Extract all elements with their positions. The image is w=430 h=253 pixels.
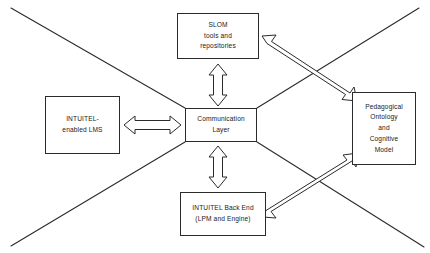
node-pedagogy-line-3: and <box>378 123 389 134</box>
node-pedagogy-line-2: Ontology <box>370 112 397 123</box>
node-slom-line-1: SLOM <box>208 20 227 31</box>
node-lms-line-2: enabled LMS <box>62 125 102 136</box>
pedagogy-to-backend-arrow <box>263 153 358 218</box>
node-pedagogy-line-4: Cognitive <box>370 134 399 145</box>
node-backend-line-2: (LPM and Engine) <box>195 214 250 225</box>
node-pedagogical-ontology-and-cognitive-model[interactable]: Pedagogical Ontology and Cognitive Model <box>352 92 416 165</box>
node-pedagogy-line-1: Pedagogical <box>365 102 403 113</box>
node-communication-line-1: Communication <box>197 114 245 125</box>
node-slom-tools-and-repositories[interactable]: SLOM tools and repositories <box>177 13 259 59</box>
node-pedagogy-line-5: Model <box>375 145 394 156</box>
node-intuitel-back-end[interactable]: INTUITEL Back End (LPM and Engine) <box>180 192 266 236</box>
node-slom-line-2: tools and <box>204 31 232 42</box>
node-intuitel-enabled-lms[interactable]: INTUITEL- enabled LMS <box>45 96 120 154</box>
node-backend-line-1: INTUITEL Back End <box>192 203 253 214</box>
communication-to-backend-arrow <box>209 146 227 188</box>
diagram-canvas: SLOM tools and repositories INTUITEL- en… <box>0 0 430 253</box>
node-slom-line-3: repositories <box>200 41 236 52</box>
node-lms-line-1: INTUITEL- <box>66 114 99 125</box>
node-communication-layer[interactable]: Communication Layer <box>185 108 257 142</box>
slom-to-communication-arrow <box>209 64 227 106</box>
lms-to-communication-arrow <box>124 116 181 134</box>
pedagogy-to-slom-arrow <box>262 35 357 101</box>
node-communication-line-2: Layer <box>212 125 229 136</box>
